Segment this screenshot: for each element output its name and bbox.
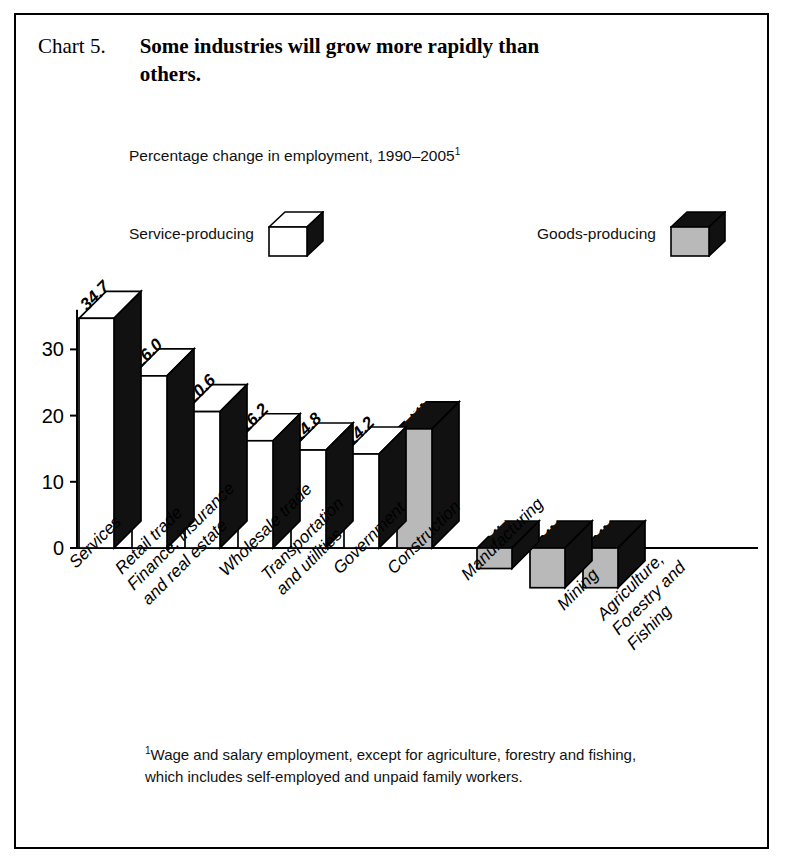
chart-frame: Chart 5. Some industries will grow more …: [14, 13, 769, 849]
chart-footnote: 1Wage and salary employment, except for …: [145, 744, 645, 788]
chart-plot-area: 0102030-6.0-6.0-3.118.014.214.816.220.62…: [16, 15, 771, 851]
bar-side-face: [114, 291, 141, 548]
bar-front-face[interactable]: [79, 318, 114, 548]
bar-chart-svg: 0102030-6.0-6.0-3.118.014.214.816.220.62…: [16, 15, 771, 851]
y-axis-tick-label: 10: [42, 471, 64, 493]
footnote-text: Wage and salary employment, except for a…: [145, 746, 636, 785]
y-axis-tick-label: 20: [42, 405, 64, 427]
chart-page: Chart 5. Some industries will grow more …: [0, 0, 785, 865]
bar-group: 34.7: [76, 276, 141, 548]
y-axis-tick-label: 30: [42, 338, 64, 360]
y-axis-tick-label: 0: [53, 537, 64, 559]
bar-front-face[interactable]: [530, 548, 565, 588]
